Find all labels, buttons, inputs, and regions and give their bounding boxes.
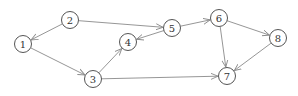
node-4: 4 [120, 34, 137, 51]
edge-2-to-5 [78, 21, 163, 28]
edge-2-to-1 [31, 24, 62, 40]
edge-3-to-7 [101, 76, 218, 79]
node-label: 1 [20, 39, 26, 50]
edges-layer [31, 20, 272, 79]
node-label: 4 [125, 37, 131, 48]
node-6: 6 [211, 10, 228, 27]
node-7: 7 [219, 68, 236, 85]
node-label: 3 [90, 74, 96, 85]
node-1: 1 [15, 36, 32, 53]
graph-svg: 12345678 [0, 0, 298, 96]
edge-6-to-7 [220, 26, 226, 67]
directed-graph-diagram: 12345678 [0, 0, 298, 96]
edge-6-to-8 [227, 21, 269, 35]
node-label: 8 [275, 33, 281, 44]
node-8: 8 [270, 30, 287, 47]
edge-8-to-7 [234, 43, 271, 71]
node-label: 5 [169, 23, 175, 34]
edge-3-to-4 [99, 49, 122, 73]
node-3: 3 [85, 71, 102, 88]
nodes-layer: 12345678 [15, 10, 287, 88]
node-label: 2 [67, 15, 73, 26]
node-label: 6 [216, 13, 222, 24]
node-2: 2 [62, 12, 79, 29]
node-5: 5 [164, 20, 181, 37]
edge-1-to-3 [31, 48, 85, 75]
edge-5-to-6 [180, 20, 210, 26]
edge-5-to-4 [137, 31, 164, 40]
node-label: 7 [224, 71, 230, 82]
